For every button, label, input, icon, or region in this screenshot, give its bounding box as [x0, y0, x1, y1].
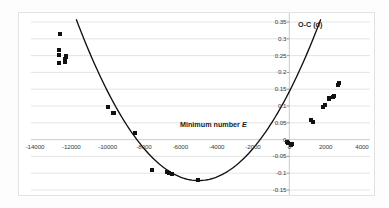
y-axis-title: O-C (d): [298, 20, 322, 29]
x-tick-label: -8000: [124, 143, 164, 150]
data-point-marker: [57, 61, 61, 65]
x-tick-label: -14000: [15, 143, 55, 150]
x-axis-title: Minimum number E: [180, 120, 247, 129]
y-tick-label: 0.15: [255, 85, 286, 92]
y-tick-label: -0.15: [255, 186, 286, 193]
data-point-marker: [311, 120, 315, 124]
y-tick-label: 0: [255, 136, 286, 143]
x-tick-label: -6000: [160, 143, 200, 150]
data-point-marker: [150, 168, 154, 172]
data-point-marker: [337, 81, 341, 85]
data-point-marker: [106, 105, 110, 109]
x-tick-label: -4000: [197, 143, 237, 150]
data-point-marker: [196, 178, 200, 182]
y-tick-label: 0.35: [255, 18, 286, 25]
y-tick-label: -0.1: [255, 169, 286, 176]
data-point-marker: [58, 32, 62, 36]
data-point-marker: [63, 60, 67, 64]
y-tick-label: -0.05: [255, 152, 286, 159]
data-point-marker: [57, 48, 61, 52]
x-tick-label: 0: [269, 143, 309, 150]
data-point-marker: [112, 111, 116, 115]
data-point-marker: [332, 94, 336, 98]
y-tick-label: 0.3: [255, 35, 286, 42]
data-point-marker: [323, 103, 327, 107]
x-tick-label: 4000: [342, 143, 382, 150]
y-tick-label: 0.2: [255, 68, 286, 75]
x-tick-label: 2000: [306, 143, 346, 150]
data-point-marker: [170, 172, 174, 176]
x-tick-label: -2000: [233, 143, 273, 150]
y-tick-label: 0.1: [255, 102, 286, 109]
o-c-diagram: 0.350.30.250.20.150.10.050-0.05-0.1-0.15…: [0, 0, 389, 208]
y-tick-label: 0.05: [255, 119, 286, 126]
x-tick-label: -10000: [88, 143, 128, 150]
x-tick-label: -12000: [51, 143, 91, 150]
y-tick-label: 0.25: [255, 52, 286, 59]
data-point-marker: [57, 53, 61, 57]
data-point-marker: [133, 131, 137, 135]
